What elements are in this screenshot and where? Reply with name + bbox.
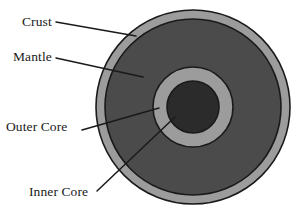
outer-core-label: Outer Core bbox=[6, 119, 67, 134]
crust-label: Crust bbox=[22, 14, 52, 29]
crust-leader-line bbox=[56, 22, 136, 36]
mantle-label: Mantle bbox=[13, 49, 52, 64]
inner-core-label: Inner Core bbox=[29, 184, 88, 199]
diagram-page: Crust Mantle Outer Core Inner Core bbox=[0, 0, 302, 216]
inner-core-circle bbox=[167, 81, 219, 133]
